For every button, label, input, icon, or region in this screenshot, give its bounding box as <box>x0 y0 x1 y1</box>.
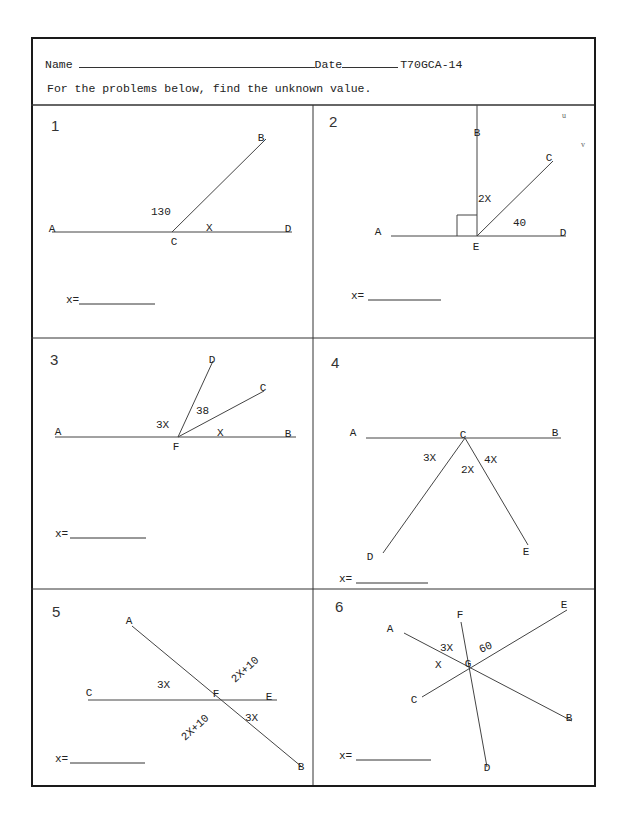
point-label: G <box>465 658 472 670</box>
point-label: F <box>213 688 220 700</box>
problem-number: 4 <box>331 354 339 371</box>
problem-diagrams: 1ABCD130Xx=2ABCDE2X40x=3ABCDF3X38Xx=4ABC… <box>0 0 626 829</box>
point-label: B <box>285 428 292 440</box>
point-label: E <box>561 599 568 611</box>
angle-label: 130 <box>151 206 171 218</box>
answer-label: x= <box>55 528 68 540</box>
angle-label: 60 <box>477 639 494 655</box>
angle-label: 4X <box>484 454 498 466</box>
point-label: A <box>387 623 394 635</box>
angle-label: 2X+10 <box>179 712 212 743</box>
angle-label: 40 <box>513 217 526 229</box>
angle-label: X <box>435 659 442 671</box>
angle-label: 2X <box>478 193 492 205</box>
point-label: B <box>474 127 481 139</box>
point-label: D <box>285 223 292 235</box>
stray-mark: v <box>581 140 585 149</box>
angle-label: 2X <box>461 464 475 476</box>
point-label: A <box>55 426 62 438</box>
point-label: F <box>457 609 464 621</box>
angle-label: X <box>217 427 224 439</box>
angle-label: 3X <box>440 642 454 654</box>
point-label: A <box>126 615 133 627</box>
point-label: D <box>484 762 491 774</box>
point-label: A <box>375 226 382 238</box>
problem-number: 3 <box>50 351 58 368</box>
point-label: E <box>266 691 273 703</box>
right-angle-marker <box>457 215 477 236</box>
point-label: C <box>171 236 178 248</box>
point-label: E <box>473 241 480 253</box>
point-label: C <box>260 382 267 394</box>
angle-label: 3X <box>423 452 437 464</box>
point-label: C <box>546 152 553 164</box>
point-label: C <box>411 694 418 706</box>
stray-mark: u <box>562 111 566 120</box>
angle-label: 3X <box>245 712 259 724</box>
problem-number: 2 <box>329 113 337 130</box>
point-label: B <box>552 427 559 439</box>
point-label: B <box>258 132 265 144</box>
problem-number: 6 <box>335 598 343 615</box>
answer-label: x= <box>351 290 364 302</box>
angle-label: X <box>206 222 213 234</box>
point-label: E <box>523 546 530 558</box>
point-label: D <box>209 354 216 366</box>
ray-line <box>178 361 213 437</box>
point-label: A <box>49 223 56 235</box>
point-label: D <box>367 551 374 563</box>
point-label: D <box>560 227 567 239</box>
point-label: C <box>86 687 93 699</box>
point-label: B <box>566 712 573 724</box>
answer-label: x= <box>339 573 352 585</box>
point-label: C <box>460 429 467 441</box>
angle-label: 3X <box>157 679 171 691</box>
ray-line <box>172 139 266 232</box>
answer-label: x= <box>66 294 79 306</box>
angle-label: 38 <box>196 405 209 417</box>
worksheet: NameDateT70GCA-14 For the problems below… <box>0 0 626 829</box>
point-label: F <box>173 441 180 453</box>
answer-label: x= <box>55 753 68 765</box>
angle-label: 3X <box>156 419 170 431</box>
problem-number: 1 <box>51 117 59 134</box>
angle-label: 2X+10 <box>229 654 262 685</box>
problem-number: 5 <box>52 603 60 620</box>
point-label: B <box>298 761 305 773</box>
answer-label: x= <box>339 750 352 762</box>
point-label: A <box>350 427 357 439</box>
